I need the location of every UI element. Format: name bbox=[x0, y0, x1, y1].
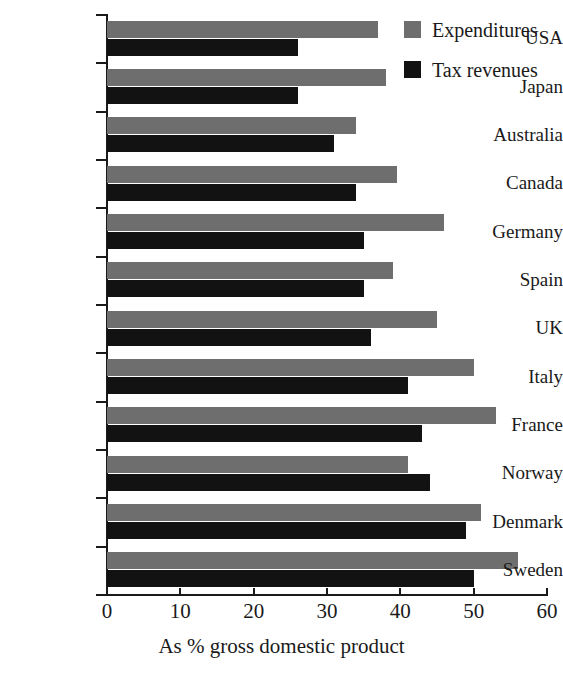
value-tick-60 bbox=[546, 588, 548, 596]
bar-spain-tax-revenues bbox=[107, 280, 364, 297]
bar-sweden-expenditures bbox=[107, 552, 518, 569]
bar-denmark-expenditures bbox=[107, 504, 481, 521]
value-tick-20 bbox=[253, 588, 255, 596]
bar-uk-tax-revenues bbox=[107, 329, 371, 346]
category-label-france: France bbox=[467, 414, 563, 436]
legend-label-expenditures: Expenditures bbox=[432, 19, 538, 41]
value-tick-10 bbox=[179, 588, 181, 596]
value-tick-0 bbox=[106, 588, 108, 596]
category-tick bbox=[96, 207, 107, 209]
category-tick bbox=[96, 62, 107, 64]
legend-item-tax-revenues: Tax revenues bbox=[404, 56, 538, 83]
legend-swatch-tax-revenues bbox=[404, 61, 421, 78]
value-tick-label-30: 30 bbox=[317, 598, 338, 624]
legend-label-tax-revenues: Tax revenues bbox=[432, 59, 538, 81]
bar-japan-tax-revenues bbox=[107, 87, 298, 104]
bar-italy-expenditures bbox=[107, 359, 474, 376]
category-tick bbox=[96, 159, 107, 161]
category-label-sweden: Sweden bbox=[467, 559, 563, 581]
bar-uk-expenditures bbox=[107, 311, 437, 328]
category-tick bbox=[96, 546, 107, 548]
legend-swatch-expenditures bbox=[404, 21, 421, 38]
category-label-norway: Norway bbox=[467, 462, 563, 484]
category-label-denmark: Denmark bbox=[467, 511, 563, 533]
bar-usa-expenditures bbox=[107, 21, 378, 38]
legend-item-expenditures: Expenditures bbox=[404, 16, 538, 43]
category-label-germany: Germany bbox=[467, 221, 563, 243]
value-tick-label-40: 40 bbox=[390, 598, 411, 624]
category-label-canada: Canada bbox=[467, 172, 563, 194]
plot-area bbox=[107, 14, 547, 594]
bar-germany-expenditures bbox=[107, 214, 444, 231]
bar-usa-tax-revenues bbox=[107, 39, 298, 56]
bar-spain-expenditures bbox=[107, 262, 393, 279]
value-tick-label-10: 10 bbox=[170, 598, 191, 624]
category-label-australia: Australia bbox=[467, 124, 563, 146]
category-tick bbox=[96, 401, 107, 403]
category-tick bbox=[96, 497, 107, 499]
category-tick bbox=[96, 304, 107, 306]
category-tick bbox=[96, 256, 107, 258]
category-label-uk: UK bbox=[467, 317, 563, 339]
value-tick-50 bbox=[473, 588, 475, 596]
bar-denmark-tax-revenues bbox=[107, 522, 466, 539]
bar-sweden-tax-revenues bbox=[107, 570, 474, 587]
bar-canada-tax-revenues bbox=[107, 184, 356, 201]
category-label-italy: Italy bbox=[467, 366, 563, 388]
bar-norway-expenditures bbox=[107, 456, 408, 473]
value-tick-30 bbox=[326, 588, 328, 596]
bar-canada-expenditures bbox=[107, 166, 397, 183]
bar-chart: USAJapanAustraliaCanadaGermanySpainUKIta… bbox=[0, 0, 563, 683]
bar-australia-tax-revenues bbox=[107, 135, 334, 152]
bar-italy-tax-revenues bbox=[107, 377, 408, 394]
category-tick bbox=[96, 111, 107, 113]
value-tick-label-20: 20 bbox=[243, 598, 264, 624]
value-tick-label-60: 60 bbox=[537, 598, 558, 624]
value-tick-40 bbox=[399, 588, 401, 596]
bar-france-tax-revenues bbox=[107, 425, 422, 442]
x-axis-title: As % gross domestic product bbox=[0, 634, 563, 659]
value-tick-label-0: 0 bbox=[102, 598, 113, 624]
category-tick bbox=[96, 14, 107, 16]
bar-norway-tax-revenues bbox=[107, 474, 430, 491]
category-label-spain: Spain bbox=[467, 269, 563, 291]
bar-japan-expenditures bbox=[107, 69, 386, 86]
bar-germany-tax-revenues bbox=[107, 232, 364, 249]
chart-legend: Expenditures Tax revenues bbox=[404, 16, 538, 96]
bar-australia-expenditures bbox=[107, 117, 356, 134]
bar-france-expenditures bbox=[107, 407, 496, 424]
value-tick-label-50: 50 bbox=[463, 598, 484, 624]
category-tick bbox=[96, 352, 107, 354]
category-tick bbox=[96, 449, 107, 451]
